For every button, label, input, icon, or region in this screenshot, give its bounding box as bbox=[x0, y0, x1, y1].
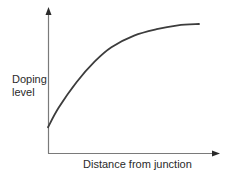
y-axis-label-line-2: level bbox=[12, 86, 47, 99]
y-axis-arrow-icon bbox=[46, 7, 52, 15]
y-axis-label: Doping level bbox=[12, 73, 47, 99]
x-axis bbox=[48, 151, 220, 157]
x-axis-arrow-icon bbox=[212, 151, 220, 157]
y-axis-label-line-1: Doping bbox=[12, 73, 47, 86]
doping-curve bbox=[48, 24, 199, 127]
x-axis-label: Distance from junction bbox=[83, 158, 192, 171]
